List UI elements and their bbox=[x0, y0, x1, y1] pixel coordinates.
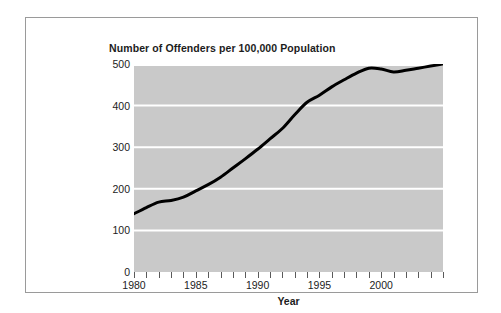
x-axis-tick bbox=[134, 272, 135, 278]
y-axis-tick-label: 300 bbox=[90, 142, 130, 153]
x-axis-tick bbox=[431, 272, 432, 278]
data-line-offenders bbox=[134, 64, 443, 214]
y-axis-tick-label: 500 bbox=[90, 59, 130, 70]
x-axis-tick bbox=[332, 272, 333, 278]
x-axis-tick bbox=[307, 272, 308, 278]
x-axis-tick bbox=[196, 272, 197, 278]
x-axis-tick bbox=[282, 272, 283, 278]
figure-frame: Number of Offenders per 100,000 Populati… bbox=[25, 17, 478, 293]
x-axis-tick bbox=[418, 272, 419, 278]
plot-area bbox=[134, 64, 443, 272]
x-axis-tick bbox=[356, 272, 357, 278]
x-axis-tick bbox=[319, 272, 320, 278]
x-axis-tick bbox=[381, 272, 382, 278]
gridlines bbox=[134, 65, 443, 230]
x-axis-tick bbox=[258, 272, 259, 278]
x-axis-tick bbox=[221, 272, 222, 278]
x-axis-tick-label: 1985 bbox=[184, 279, 207, 291]
x-axis-tick-label: 1990 bbox=[246, 279, 269, 291]
x-axis-tick-label: 2000 bbox=[370, 279, 393, 291]
x-axis-tick bbox=[344, 272, 345, 278]
x-axis-title: Year bbox=[134, 295, 443, 307]
x-axis-tick bbox=[233, 272, 234, 278]
y-axis-tick-labels: 0100200300400500 bbox=[88, 64, 130, 272]
x-axis-tick-label: 1980 bbox=[122, 279, 145, 291]
x-axis-tick bbox=[183, 272, 184, 278]
x-axis-tick bbox=[171, 272, 172, 278]
chart-title: Number of Offenders per 100,000 Populati… bbox=[109, 42, 336, 54]
y-axis-tick-label: 200 bbox=[90, 184, 130, 195]
x-axis-ticks bbox=[134, 272, 443, 279]
x-axis-tick bbox=[159, 272, 160, 278]
line-chart-svg bbox=[134, 64, 443, 272]
x-axis-tick bbox=[443, 272, 444, 278]
x-axis-tick-labels: 19801985199019952000 bbox=[134, 279, 454, 293]
y-axis-tick-label: 100 bbox=[90, 225, 130, 236]
x-axis-tick bbox=[369, 272, 370, 278]
x-axis-tick bbox=[270, 272, 271, 278]
x-axis-tick bbox=[146, 272, 147, 278]
x-axis-tick bbox=[245, 272, 246, 278]
x-axis-tick bbox=[295, 272, 296, 278]
x-axis-tick-label: 1995 bbox=[308, 279, 331, 291]
y-axis-tick-label: 400 bbox=[90, 101, 130, 112]
y-axis-tick-label: 0 bbox=[90, 267, 130, 278]
x-axis-tick bbox=[406, 272, 407, 278]
x-axis-tick bbox=[208, 272, 209, 278]
x-axis-tick bbox=[394, 272, 395, 278]
